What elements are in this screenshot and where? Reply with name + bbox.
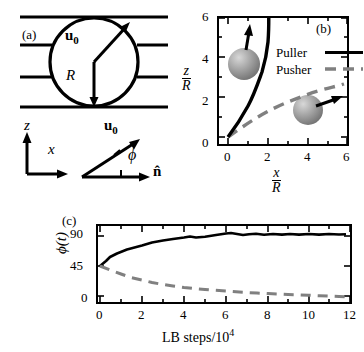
radius-label: R [66, 68, 75, 83]
legend-item-puller: Puller [276, 44, 363, 60]
pusher-sphere-annotation [293, 95, 343, 125]
panel-c-xtick-2: 2 [138, 308, 145, 321]
panel-c-ytick-90: 90 [70, 227, 83, 240]
panel-c-ylabel: ϕ(t) [53, 232, 69, 254]
panel-c-xlabel-exponent: 4 [229, 327, 234, 338]
panel-c-ytick-45: 45 [70, 259, 83, 272]
panel-b-xlabel-den: R [272, 180, 281, 195]
legend-label-pusher: Pusher [276, 63, 320, 76]
x-axis-label: x [48, 142, 55, 157]
panel-b-ytick-0: 0 [202, 136, 209, 149]
legend-swatch-puller-solid-line [325, 51, 363, 54]
x-axis-arrow [27, 170, 68, 179]
panel-c-xtick-10: 10 [302, 308, 315, 321]
legend-swatch-pusher-dashed-line [325, 66, 363, 72]
panel-b-legend: Puller Pusher [276, 44, 363, 77]
panel-b-xlabel: x R [272, 166, 281, 196]
panel-c-plot [96, 224, 352, 304]
panel-b-ylabel-num: z [182, 64, 191, 78]
u0-label-sub: 0 [73, 34, 79, 46]
panel-c-xtick-12: 12 [343, 308, 356, 321]
panel-c-xtick-0: 0 [96, 308, 103, 321]
panel-b-tag: (b) [316, 22, 331, 35]
panel-b-xtick-4: 4 [304, 150, 311, 163]
panel-c-yticks-marks [97, 236, 351, 296]
panel-b-ytick-4: 4 [202, 52, 209, 65]
panel-c-puller-curve [100, 233, 346, 266]
u0-arrow [94, 22, 130, 62]
legend-item-pusher: Pusher [276, 61, 363, 77]
panel-b-ylabel: z R [182, 64, 191, 94]
panel-b-ytick-2: 2 [202, 94, 209, 107]
panel-c-xtick-8: 8 [264, 308, 271, 321]
panel-b-ylabel-den: R [182, 78, 191, 93]
panel-c-pusher-curve [100, 266, 346, 297]
puller-sphere-annotation [228, 24, 260, 80]
panel-c-xtick-4: 4 [180, 308, 187, 321]
z-axis-arrow [23, 132, 32, 174]
panel-b: z R 6 4 2 0 [180, 2, 364, 190]
n-hat-arrow [82, 173, 150, 182]
panel-b-ytick-6: 6 [202, 10, 209, 23]
axes-inset: z x u0 ϕ n̂ [8, 118, 180, 184]
panel-b-ylabel-fraction: z R [182, 64, 191, 94]
panel-c: (c) ϕ(t) 90 45 0 [30, 196, 364, 352]
panel-c-xtick-6: 6 [222, 308, 229, 321]
n-hat-label: n̂ [153, 164, 161, 179]
panel-b-xlabel-num: x [272, 166, 281, 180]
panel-c-xlabel-main: LB steps/10 [162, 330, 229, 345]
panel-a: (a) u0 R [8, 4, 180, 122]
u0-inset-label-sub: 0 [112, 124, 118, 136]
u0-inset-label: u0 [104, 118, 118, 136]
phi-angle-label: ϕ [128, 147, 136, 163]
panel-a-tag: (a) [22, 28, 36, 41]
figure-root: (a) u0 R [0, 0, 364, 352]
z-axis-label: z [24, 118, 30, 133]
panel-b-xlabel-fraction: x R [272, 166, 281, 196]
u0-label: u0 [65, 28, 79, 46]
panel-c-xlabel: LB steps/104 [162, 328, 234, 345]
legend-label-puller: Puller [276, 46, 320, 59]
panel-c-ylabel-wrap: ϕ(t) [52, 232, 70, 254]
panel-b-xtick-2: 2 [264, 150, 271, 163]
panel-b-xtick-0: 0 [224, 150, 231, 163]
radius-arrow [90, 62, 99, 107]
panel-c-ytick-0: 0 [81, 291, 88, 304]
panel-b-xtick-6: 6 [343, 150, 350, 163]
panel-a-drawing [8, 4, 180, 122]
